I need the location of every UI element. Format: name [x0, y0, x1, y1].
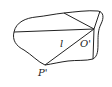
- label-o-prime: O': [80, 38, 91, 49]
- chord-to-top-left: [64, 13, 94, 29]
- chord-to-top-right: [94, 11, 100, 29]
- chord-to-left: [14, 29, 94, 32]
- diagram-canvas: l O' P': [0, 0, 112, 87]
- chord-down: [93, 29, 94, 59]
- label-l: l: [60, 38, 63, 49]
- label-p-prime: P': [37, 67, 47, 78]
